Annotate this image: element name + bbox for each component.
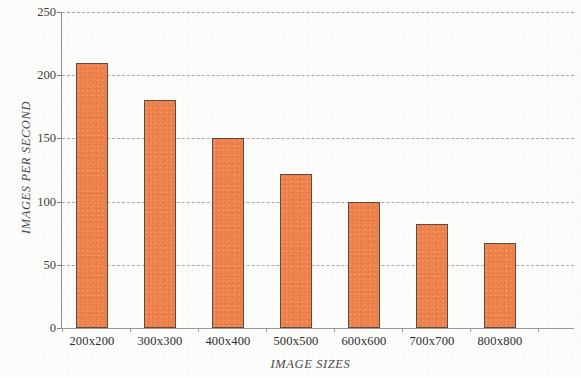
bar-400x400[interactable] (212, 138, 244, 328)
plot-area (62, 12, 574, 328)
x-axis-tick-mark (266, 328, 267, 332)
y-axis-tick-mark (57, 75, 62, 76)
gridline-200 (62, 75, 574, 76)
bar-700x700[interactable] (416, 224, 448, 328)
x-axis-tick-mark (334, 328, 335, 332)
y-axis-tick-label: 250 (10, 5, 56, 20)
x-axis-spine (61, 328, 574, 329)
gridline-100 (62, 202, 574, 203)
bar-chart-figure: IMAGES PER SECOND 250 200 150 100 50 0 (0, 0, 581, 378)
y-axis-tick-mark (57, 202, 62, 203)
x-axis-tick-label: 800x800 (455, 334, 545, 349)
x-axis-tick-mark (470, 328, 471, 332)
gridline-250 (62, 12, 574, 13)
x-axis-tick-mark (402, 328, 403, 332)
y-axis-tick-label: 150 (10, 131, 56, 146)
x-axis-tick-mark (62, 328, 63, 332)
bar-200x200[interactable] (76, 63, 108, 328)
x-axis-tick-mark (538, 328, 539, 332)
bar-500x500[interactable] (280, 174, 312, 328)
bar-300x300[interactable] (144, 100, 176, 328)
y-axis-tick-mark (57, 265, 62, 266)
y-axis-tick-mark (57, 12, 62, 13)
x-axis-tick-mark (130, 328, 131, 332)
x-axis-tick-mark (198, 328, 199, 332)
bar-800x800[interactable] (484, 243, 516, 328)
y-axis-tick-label: 100 (10, 194, 56, 209)
gridline-150 (62, 138, 574, 139)
y-axis-tick-mark (57, 138, 62, 139)
y-axis-tick-group: 250 200 150 100 50 0 (0, 12, 56, 328)
y-axis-tick-label: 200 (10, 68, 56, 83)
x-axis-title: IMAGE SIZES (0, 357, 581, 372)
y-axis-tick-label: 50 (10, 257, 56, 272)
bar-600x600[interactable] (348, 202, 380, 328)
